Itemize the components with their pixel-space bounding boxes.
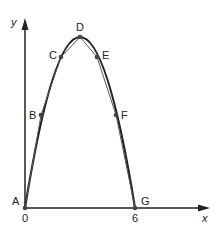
label-b: B [29,109,36,121]
point-g [133,206,138,211]
y-axis-arrow-icon [22,18,29,30]
tick-label-0: 0 [22,212,28,224]
point-c [59,55,64,60]
point-f [114,113,119,118]
label-c: C [49,49,57,61]
x-axis-arrow-icon [198,205,210,212]
label-g: G [141,195,150,207]
x-axis-label: x [201,212,208,224]
point-a [23,206,28,211]
point-e [95,55,100,60]
label-a: A [12,195,20,207]
tick-label-6: 6 [132,212,138,224]
point-d [78,35,83,40]
point-b [39,113,44,118]
parabola-curve [25,37,135,208]
parabola-diagram: A B C D E F G y x 0 6 [0,0,217,236]
y-axis-label: y [10,16,18,28]
label-f: F [121,109,128,121]
label-e: E [102,49,109,61]
label-d: D [76,21,84,33]
